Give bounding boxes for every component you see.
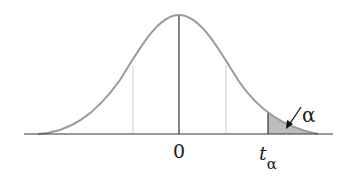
center-label: 0 (173, 140, 185, 162)
alpha-arrow (289, 107, 301, 125)
critical-value-letter: t (259, 142, 267, 164)
alpha-label: α (302, 103, 316, 127)
density-curve (38, 15, 318, 134)
critical-value-label: tα (259, 142, 277, 164)
critical-value-subscript: α (267, 155, 277, 173)
t-distribution-diagram (0, 0, 338, 177)
